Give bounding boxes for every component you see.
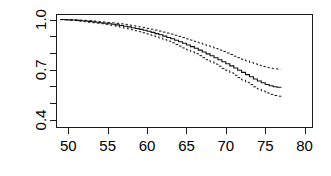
- plot-frame: [57, 15, 313, 128]
- series-upper-confidence-limit: [60, 20, 281, 70]
- y-axis-label-0.4: 0.4: [32, 110, 49, 131]
- x-axis-label-75: 75: [257, 137, 274, 154]
- x-axis-label-60: 60: [139, 137, 156, 154]
- x-axis-label-55: 55: [99, 137, 116, 154]
- series-lower-confidence-limit: [60, 20, 281, 97]
- y-axis-label-1.0: 1.0: [32, 9, 49, 30]
- x-axis-label-65: 65: [178, 137, 195, 154]
- y-axis-tick-marks: [50, 21, 57, 121]
- y-axis-label-0.7: 0.7: [32, 59, 49, 80]
- plot-canvas: 0.40.71.0 50556065707580: [0, 0, 331, 176]
- survival-plot-figure: 0.40.71.0 50556065707580: [0, 0, 331, 176]
- series-survival: [60, 20, 281, 88]
- data-series-layer: [60, 20, 281, 97]
- y-axis-labels: 0.40.71.0: [32, 9, 49, 130]
- x-axis-label-80: 80: [296, 137, 313, 154]
- x-axis-labels: 50556065707580: [60, 137, 313, 154]
- x-axis-label-50: 50: [60, 137, 77, 154]
- x-axis-tick-marks: [69, 128, 306, 135]
- x-axis-label-70: 70: [218, 137, 235, 154]
